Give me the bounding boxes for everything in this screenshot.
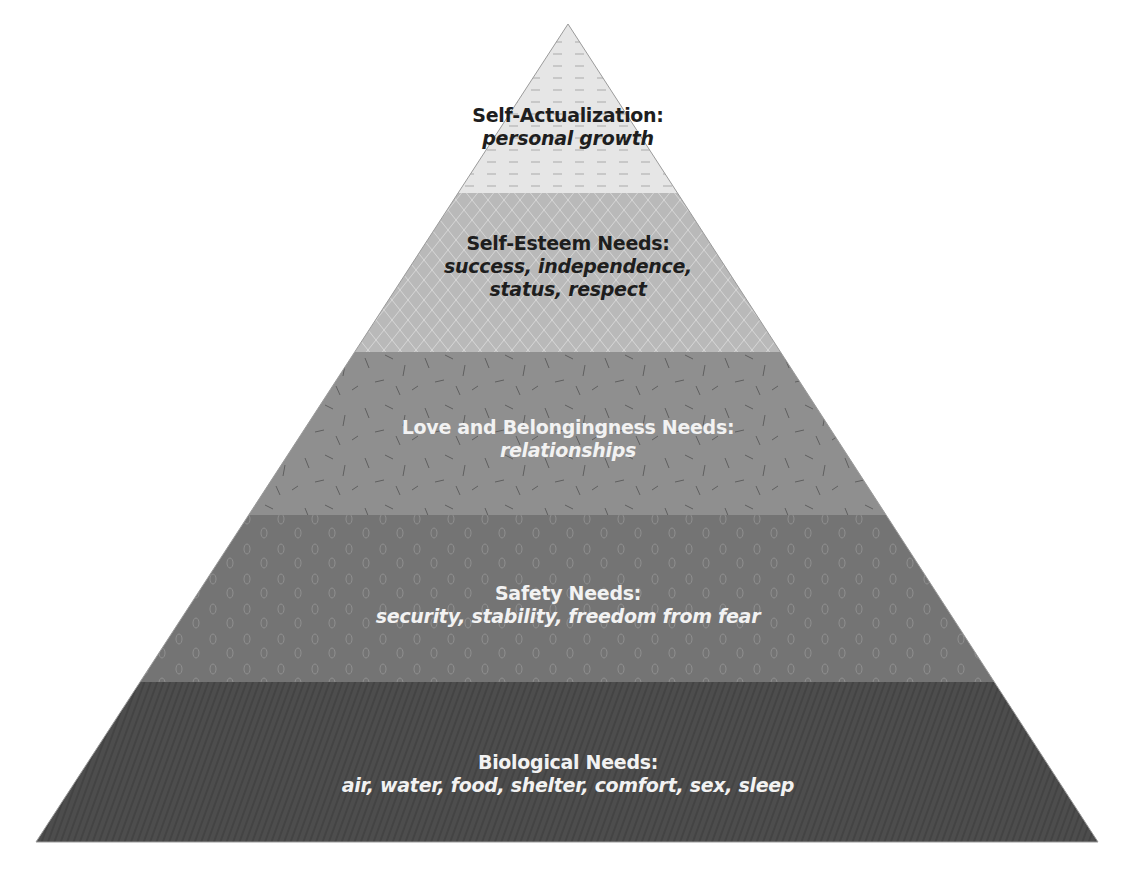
tier-label-biological: Biological Needs: air, water, food, shel… — [342, 751, 794, 797]
pyramid-diagram: Self-Actualization: personal growth Self… — [0, 0, 1132, 869]
tier-label-self-actualization: Self-Actualization: personal growth — [472, 104, 663, 150]
tier-title: Safety Needs: — [376, 582, 760, 605]
tier-description: success, independence, — [444, 255, 692, 278]
tier-title: Love and Belongingness Needs: — [402, 416, 734, 439]
tier-label-love-belongingness: Love and Belongingness Needs: relationsh… — [402, 416, 734, 462]
tier-title: Biological Needs: — [342, 751, 794, 774]
tier-description: air, water, food, shelter, comfort, sex,… — [342, 774, 794, 797]
tier-title: Self-Esteem Needs: — [444, 232, 692, 255]
tier-description: status, respect — [444, 278, 692, 301]
tier-label-safety: Safety Needs: security, stability, freed… — [376, 582, 760, 628]
tier-title: Self-Actualization: — [472, 104, 663, 127]
tier-label-self-esteem: Self-Esteem Needs: success, independence… — [444, 232, 692, 302]
tier-description: relationships — [402, 439, 734, 462]
tier-description: security, stability, freedom from fear — [376, 605, 760, 628]
tier-description: personal growth — [472, 127, 663, 150]
